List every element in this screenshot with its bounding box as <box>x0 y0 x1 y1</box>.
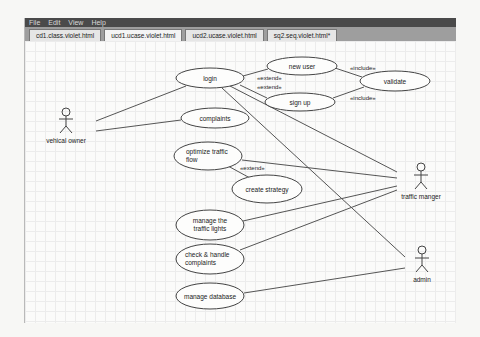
use-case-diagram: login new user validate sign up complain… <box>0 0 480 337</box>
assoc-owner-login[interactable] <box>96 86 186 121</box>
assoc-database-admin[interactable] <box>244 268 405 293</box>
actor-vehicle-owner-label: vehical owner <box>46 137 87 144</box>
usecase-optimize-label-1: optimize traffic <box>186 148 229 156</box>
stereotype-include-sign-up: «include» <box>350 95 376 101</box>
stereotype-include-new-user: «include» <box>350 65 376 71</box>
actor-traffic-manager[interactable] <box>414 163 428 189</box>
usecase-login-label: login <box>203 75 217 83</box>
usecase-optimize-traffic-flow[interactable] <box>174 142 242 170</box>
usecase-new-user-label: new user <box>289 63 316 70</box>
usecase-validate-label: validate <box>384 78 407 85</box>
actor-admin[interactable] <box>415 246 429 272</box>
usecase-lights-label-2: traffic lights <box>194 225 228 233</box>
usecase-check-label-1: check & handle <box>185 251 230 258</box>
stereotype-extend-create-strategy: «extend» <box>240 165 265 171</box>
assoc-owner-complaints[interactable] <box>96 120 181 131</box>
usecase-complaints-label: complaints <box>199 115 231 123</box>
stereotype-extend-sign-up: «extend» <box>257 84 282 90</box>
usecase-manage-database-label: manage database <box>184 293 236 301</box>
usecase-optimize-label-2: flow <box>186 156 198 163</box>
usecase-lights-label-1: manage the <box>193 217 228 225</box>
stereotype-extend-new-user: «extend» <box>257 75 282 81</box>
actor-admin-label: admin <box>413 276 431 283</box>
usecase-create-strategy-label: create strategy <box>246 186 290 194</box>
assoc-login-admin[interactable] <box>222 88 405 257</box>
usecase-check-label-2: complaints <box>185 259 217 267</box>
actor-vehicle-owner[interactable] <box>59 108 73 133</box>
usecase-sign-up-label: sign up <box>290 99 311 107</box>
actor-traffic-manager-label: traffic manger <box>401 193 441 201</box>
